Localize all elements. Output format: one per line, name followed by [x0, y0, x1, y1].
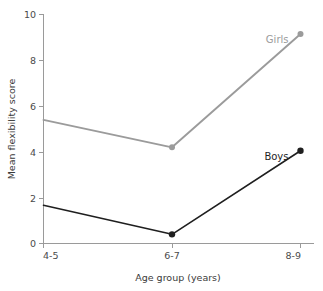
y-tick-label-6: 6: [30, 101, 36, 112]
x-tick-label-8-9: 8-9: [285, 250, 301, 261]
data-point-girls-8-9: [298, 31, 304, 37]
y-tick-label-4: 4: [30, 147, 36, 158]
x-tick-label-4-5: 4-5: [43, 250, 59, 261]
series-label-girls: Girls: [266, 34, 289, 45]
data-point-boys-8-9: [297, 148, 303, 154]
y-tick-label-8: 8: [30, 55, 36, 66]
x-tick-label-6-7: 6-7: [164, 250, 180, 261]
series-line-boys: [44, 151, 301, 235]
x-axis-title: Age group (years): [135, 272, 221, 283]
data-point-boys-6-7: [169, 231, 175, 237]
x-axis-ticks: [44, 244, 301, 249]
y-tick-label-2: 2: [30, 193, 36, 204]
data-point-girls-6-7: [169, 144, 175, 150]
series-label-boys: Boys: [264, 151, 288, 162]
chart-canvas: 10 8 6 4 2 0 4-5 6-7 8-9 Age group (year…: [0, 0, 323, 291]
y-tick-label-10: 10: [24, 9, 36, 20]
y-tick-label-0: 0: [30, 238, 36, 249]
y-axis-ticks: [39, 15, 44, 244]
y-axis-title: Mean flexibility score: [6, 79, 17, 180]
flexibility-score-line-chart: 10 8 6 4 2 0 4-5 6-7 8-9 Age group (year…: [0, 0, 323, 291]
series-line-girls: [44, 34, 301, 147]
